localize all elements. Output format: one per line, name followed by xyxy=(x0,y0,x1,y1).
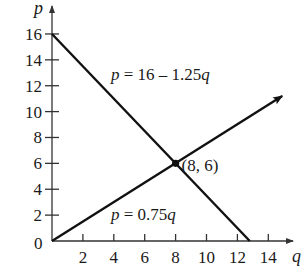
y-tick-label: 12 xyxy=(25,77,42,96)
y-tick-label: 4 xyxy=(34,180,43,199)
y-tick-label: 8 xyxy=(34,128,43,147)
origin-label: 0 xyxy=(34,234,43,253)
y-ticks: 246810121416 xyxy=(25,25,59,225)
x-tick-label: 12 xyxy=(229,248,246,267)
y-axis-label: p xyxy=(32,0,43,18)
y-tick-label: 2 xyxy=(34,206,43,225)
y-tick-label: 14 xyxy=(25,51,43,70)
x-axis-label: q xyxy=(292,246,301,266)
x-tick-label: 10 xyxy=(198,248,215,267)
x-tick-label: 8 xyxy=(171,248,180,267)
y-tick-label: 16 xyxy=(25,25,42,44)
demand-equation-label: p = 16 – 1.25q xyxy=(110,65,210,84)
x-tick-label: 6 xyxy=(140,248,149,267)
supply-equation-label: p = 0.75q xyxy=(110,205,176,224)
x-tick-label: 4 xyxy=(110,248,119,267)
supply-demand-chart: p q 0 246810121416 2468101214 (8, 6) p =… xyxy=(0,0,305,272)
x-tick-label: 14 xyxy=(260,248,278,267)
y-tick-label: 6 xyxy=(34,154,43,173)
x-tick-label: 2 xyxy=(79,248,88,267)
equilibrium-label: (8, 6) xyxy=(182,156,219,175)
y-tick-label: 10 xyxy=(25,103,42,122)
equilibrium-point xyxy=(172,160,179,167)
